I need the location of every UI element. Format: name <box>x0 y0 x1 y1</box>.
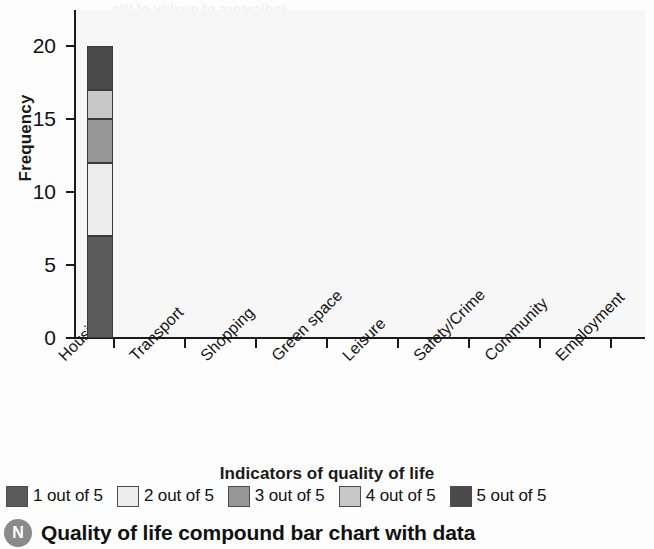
legend-label: 5 out of 5 <box>477 486 547 506</box>
x-tick-leisure <box>397 339 399 348</box>
legend-swatch-icon <box>117 486 139 507</box>
bar-segment-housing-5-out-of-5[interactable] <box>87 46 113 90</box>
y-tick-label-wrap-5: 5 <box>16 254 62 275</box>
legend-label: 4 out of 5 <box>366 486 436 506</box>
x-tick-green-space <box>326 339 328 348</box>
figure-caption: N Quality of life compound bar chart wit… <box>0 516 654 549</box>
legend-label: 2 out of 5 <box>144 486 214 506</box>
x-tick-shopping <box>255 339 257 348</box>
y-tick-label-wrap-20: 20 <box>16 35 62 56</box>
y-tick-label-5: 5 <box>16 254 56 275</box>
y-tick-label-20: 20 <box>16 35 56 56</box>
caption-text: Quality of life compound bar chart with … <box>41 521 475 545</box>
y-tick-label-wrap-15: 15 <box>16 108 62 129</box>
y-tick-label-wrap-0: 0 <box>16 327 62 348</box>
x-tick-housing <box>113 339 115 348</box>
legend-label: 3 out of 5 <box>255 486 325 506</box>
legend-swatch-icon <box>228 486 250 507</box>
bar-segment-housing-4-out-of-5[interactable] <box>87 90 113 119</box>
y-tick-label-0: 0 <box>16 327 56 348</box>
y-tick-10 <box>66 191 75 193</box>
legend-item-2-out-of-5[interactable]: 2 out of 5 <box>117 486 214 507</box>
y-tick-label-10: 10 <box>16 181 56 202</box>
bar-segment-housing-3-out-of-5[interactable] <box>87 119 113 163</box>
x-tick-employment <box>610 339 612 348</box>
bar-segment-housing-1-out-of-5[interactable] <box>87 236 113 338</box>
plot-area <box>75 10 645 338</box>
legend-item-4-out-of-5[interactable]: 4 out of 5 <box>339 486 436 507</box>
chart-legend: 1 out of 52 out of 53 out of 54 out of 5… <box>6 484 654 508</box>
y-tick-15 <box>66 118 75 120</box>
x-tick-safety-crime <box>468 339 470 348</box>
x-axis-title: Indicators of quality of life <box>0 464 654 484</box>
legend-item-5-out-of-5[interactable]: 5 out of 5 <box>450 486 547 507</box>
y-tick-label-15: 15 <box>16 108 56 129</box>
y-axis-line <box>74 10 76 339</box>
caption-badge-icon: N <box>4 519 32 547</box>
y-tick-label-wrap-10: 10 <box>16 181 62 202</box>
legend-item-1-out-of-5[interactable]: 1 out of 5 <box>6 486 103 507</box>
legend-swatch-icon <box>339 486 361 507</box>
legend-item-3-out-of-5[interactable]: 3 out of 5 <box>228 486 325 507</box>
legend-swatch-icon <box>6 486 28 507</box>
legend-swatch-icon <box>450 486 472 507</box>
y-tick-5 <box>66 264 75 266</box>
x-tick-transport <box>184 339 186 348</box>
legend-label: 1 out of 5 <box>33 486 103 506</box>
x-tick-community <box>539 339 541 348</box>
bar-segment-housing-2-out-of-5[interactable] <box>87 163 113 236</box>
y-tick-20 <box>66 45 75 47</box>
